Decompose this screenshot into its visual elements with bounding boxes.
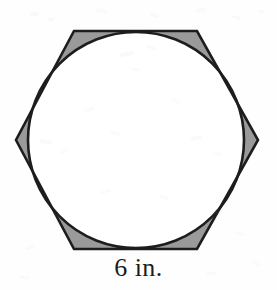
side-length-label: 6 in. bbox=[0, 252, 277, 284]
hexagon-circle-diagram bbox=[0, 0, 277, 290]
geometry-figure: 6 in. bbox=[0, 0, 277, 290]
